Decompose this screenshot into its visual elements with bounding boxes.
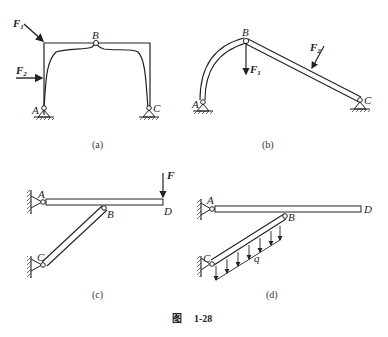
panel-a: F1 F2 B A C (a) <box>12 17 161 151</box>
force-arrow-f1 <box>24 24 43 41</box>
figure-caption-prefix: 图 <box>172 313 182 324</box>
beam-ad <box>46 199 163 205</box>
hinge-a <box>210 207 215 212</box>
deformed-shape <box>44 43 148 108</box>
caption-a: (a) <box>92 139 103 151</box>
label-b: B <box>107 208 114 220</box>
force-label-f2: F2 <box>309 41 321 55</box>
figure-caption-number: 1-28 <box>194 313 212 324</box>
label-c: C <box>203 252 211 264</box>
caption-c: (c) <box>92 289 103 301</box>
force-label-f1: F1 <box>249 63 261 77</box>
hinge-b <box>94 41 99 46</box>
label-b: B <box>92 29 99 41</box>
panel-b: F1 F2 B A C (b) <box>191 26 372 151</box>
distributed-load-q <box>216 226 280 280</box>
caption-b: (b) <box>262 139 274 151</box>
hinge-b <box>283 214 288 219</box>
arch-inner <box>205 43 246 100</box>
hinge-c <box>41 263 46 268</box>
label-b: B <box>288 211 295 223</box>
hinge-b <box>102 206 107 211</box>
force-label-f2: F2 <box>15 64 27 78</box>
label-c: C <box>364 94 372 106</box>
label-d: D <box>163 205 172 217</box>
label-a: A <box>206 194 214 206</box>
frame-outline <box>44 43 150 115</box>
label-a: A <box>191 98 199 110</box>
hinge-b <box>243 38 248 43</box>
caption-d: (d) <box>266 289 278 301</box>
label-c: C <box>153 102 161 114</box>
label-d: D <box>363 203 372 215</box>
load-label-q: q <box>254 252 260 264</box>
force-label-f1: F1 <box>12 17 24 31</box>
label-c: C <box>37 251 45 263</box>
label-a: A <box>37 188 45 200</box>
force-label-f: F <box>166 169 175 181</box>
hinge-c <box>210 262 215 267</box>
hinge-a <box>41 200 46 205</box>
panel-d: q A B C D (d) <box>197 194 372 301</box>
panel-c: F A B C D (c) <box>27 169 175 301</box>
figure-diagram: F1 F2 B A C (a) F1 F2 <box>0 0 388 337</box>
arch-outer <box>200 38 244 100</box>
label-a: A <box>31 104 39 116</box>
label-b: B <box>242 26 249 38</box>
